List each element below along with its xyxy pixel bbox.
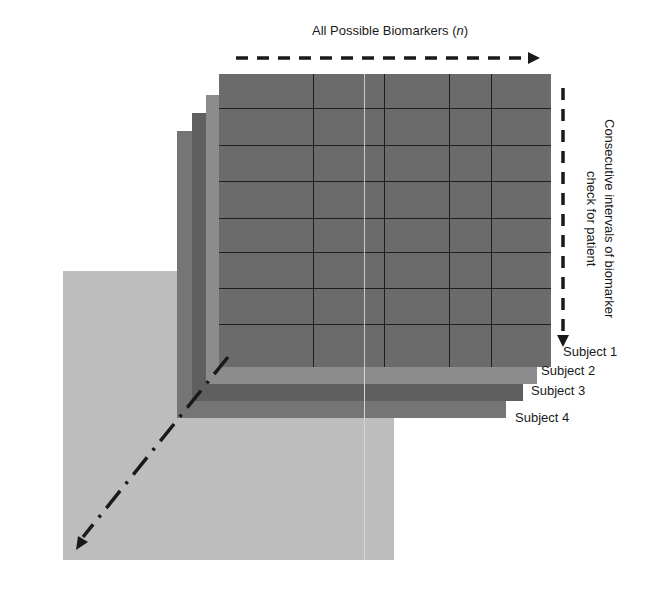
subject-1-label: Subject 1: [563, 344, 617, 359]
subject-4-label: Subject 4: [515, 410, 569, 425]
right-axis-label: Consecutive intervals of biomarker check…: [578, 104, 618, 334]
top-axis-label: All Possible Biomarkers (n): [312, 23, 468, 38]
subject-2-label: Subject 2: [541, 363, 595, 378]
top-arrowhead-icon: [528, 52, 540, 64]
right-axis-label-line1: Consecutive intervals of biomarker: [602, 119, 617, 318]
depth-dashdot-arrow: [83, 357, 228, 537]
depth-arrowhead-icon: [76, 536, 88, 550]
top-axis-label-text: All Possible Biomarkers (: [312, 23, 457, 38]
arrows-layer: [0, 0, 651, 589]
top-axis-variable: n: [457, 23, 464, 38]
right-axis-label-line2: check for patient: [584, 171, 599, 266]
top-axis-label-close: ): [464, 23, 468, 38]
subject-3-label: Subject 3: [531, 383, 585, 398]
